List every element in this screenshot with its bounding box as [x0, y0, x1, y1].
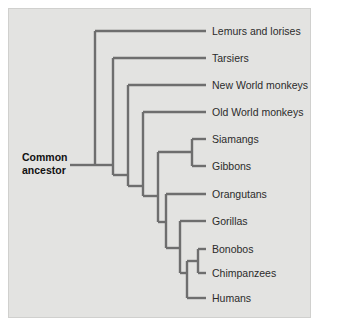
tip-label: Tarsiers [212, 52, 249, 64]
root-label-group: Common ancestor [22, 151, 68, 176]
tip-label: New World monkeys [212, 79, 308, 91]
figure-container: Lemurs and lorisesTarsiersNew World monk… [0, 0, 342, 326]
tip-label: Humans [212, 292, 251, 304]
tip-label: Lemurs and lorises [212, 25, 301, 37]
root-label-line1: Common [22, 151, 68, 163]
root-label-line2: ancestor [22, 164, 66, 176]
tip-label: Bonobos [212, 243, 253, 255]
tip-label: Old World monkeys [212, 106, 303, 118]
branch-lines [70, 31, 206, 298]
tip-label: Siamangs [212, 133, 259, 145]
tip-label: Gibbons [212, 160, 251, 172]
tip-labels-group: Lemurs and lorisesTarsiersNew World monk… [212, 25, 308, 304]
cladogram-svg: Lemurs and lorisesTarsiersNew World monk… [0, 0, 342, 326]
tip-label: Gorillas [212, 215, 248, 227]
tip-label: Orangutans [212, 188, 267, 200]
tip-label: Chimpanzees [212, 267, 276, 279]
